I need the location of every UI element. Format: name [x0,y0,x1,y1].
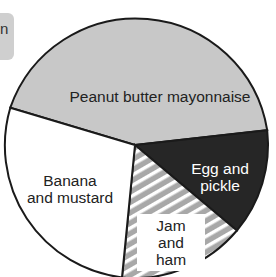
label-jam: Jam and ham [137,214,205,271]
label-egg: Egg and pickle [180,160,260,194]
label-banana-line1: Banana [15,172,125,189]
label-egg-line1: Egg and [180,160,260,177]
label-peanut-text: Peanut butter mayonnaise [70,88,251,105]
label-banana-line2: and mustard [15,189,125,206]
label-egg-line2: pickle [180,177,260,194]
label-jam-line1: Jam and [142,217,200,251]
label-jam-line2: ham [142,251,200,268]
label-banana: Banana and mustard [15,172,125,206]
label-peanut: Peanut butter mayonnaise [60,88,260,105]
